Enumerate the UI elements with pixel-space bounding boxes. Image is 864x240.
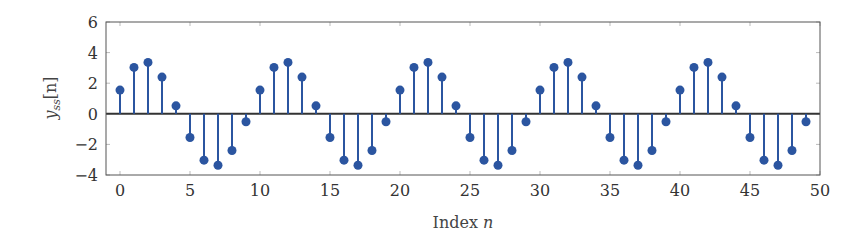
stem-marker — [396, 86, 405, 95]
stem-marker — [186, 133, 195, 142]
stem-marker — [550, 63, 559, 72]
x-tick-label: 40 — [670, 181, 690, 200]
stem-marker — [242, 117, 251, 126]
x-tick-label: 0 — [115, 181, 125, 200]
stem-marker — [620, 156, 629, 165]
stem-marker — [718, 73, 727, 82]
x-tick-marks — [120, 22, 820, 175]
stem-marker — [704, 58, 713, 67]
stem-marker — [494, 161, 503, 170]
stem-marker — [522, 117, 531, 126]
stem-marker — [774, 161, 783, 170]
y-tick-label: 4 — [88, 44, 98, 63]
stem-marker — [662, 117, 671, 126]
y-axis-label: yss[n] — [41, 76, 63, 120]
stem-marker — [634, 161, 643, 170]
stem-marker — [438, 73, 447, 82]
y-tick-label: −4 — [74, 166, 98, 185]
stem-marker — [410, 63, 419, 72]
stem-marker — [732, 101, 741, 110]
stem-marker — [466, 133, 475, 142]
stem-marker — [326, 133, 335, 142]
x-axis-label: Index n — [433, 213, 494, 232]
stem-marker — [802, 117, 811, 126]
plot-frame — [106, 22, 820, 175]
stem-marker — [312, 101, 321, 110]
x-tick-label: 50 — [810, 181, 830, 200]
x-tick-label: 15 — [320, 181, 340, 200]
y-tick-label: −2 — [74, 135, 98, 154]
stem-marker — [452, 101, 461, 110]
x-tick-label: 5 — [185, 181, 195, 200]
stem-marker — [200, 156, 209, 165]
x-tick-label: 10 — [250, 181, 270, 200]
stem-marker — [648, 146, 657, 155]
stem-marker — [480, 156, 489, 165]
stem-marker — [116, 86, 125, 95]
stem-marker — [144, 58, 153, 67]
x-tick-labels: 05101520253035404550 — [115, 181, 830, 200]
x-tick-label: 45 — [740, 181, 760, 200]
x-tick-label: 20 — [390, 181, 410, 200]
x-tick-label: 30 — [530, 181, 550, 200]
stem-marker — [676, 86, 685, 95]
stem-marker — [760, 156, 769, 165]
stem-marker — [270, 63, 279, 72]
stem-marker — [746, 133, 755, 142]
stem-marker — [214, 161, 223, 170]
stem-marker — [788, 146, 797, 155]
stem-marker — [284, 58, 293, 67]
x-tick-label: 35 — [600, 181, 620, 200]
stem-marker — [564, 58, 573, 67]
stem-marker — [508, 146, 517, 155]
y-tick-labels: −4−20246 — [74, 13, 98, 185]
stem-marker — [592, 101, 601, 110]
stem-marker — [606, 133, 615, 142]
y-tick-marks — [106, 22, 820, 175]
stem-marker — [130, 63, 139, 72]
x-tick-label: 25 — [460, 181, 480, 200]
stem-marker — [368, 146, 377, 155]
x-axis-label-var: n — [483, 213, 493, 232]
y-axis-label-sub: ss — [50, 99, 63, 111]
stem-marker — [578, 73, 587, 82]
stem-marker — [382, 117, 391, 126]
stem-marker — [228, 146, 237, 155]
stem-marker — [172, 101, 181, 110]
y-tick-label: 6 — [88, 13, 98, 32]
x-axis-label-text: Index — [433, 213, 483, 232]
stem-chart: −4−20246 05101520253035404550 Index n ys… — [0, 0, 864, 240]
stem-marker — [354, 161, 363, 170]
stem-marker — [690, 63, 699, 72]
y-tick-label: 2 — [88, 74, 98, 93]
stem-marker — [340, 156, 349, 165]
stem-marker — [298, 73, 307, 82]
y-tick-label: 0 — [88, 105, 98, 124]
stem-marker — [536, 86, 545, 95]
stem-marker — [256, 86, 265, 95]
stem-marker — [158, 73, 167, 82]
stem-marker — [424, 58, 433, 67]
y-axis-label-arg: [n] — [41, 76, 60, 99]
